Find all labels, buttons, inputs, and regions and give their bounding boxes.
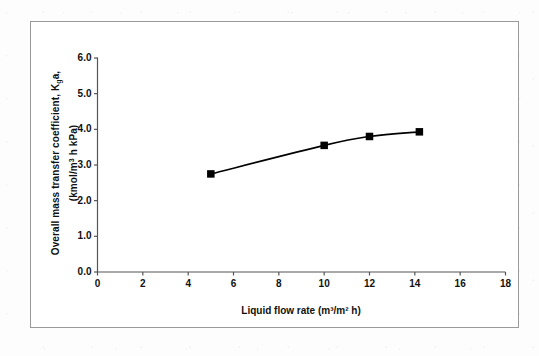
x-axis-tick-label: 14 [405,279,425,289]
x-axis-tick-label: 0 [88,279,108,289]
x-axis-tick-label: 2 [133,279,153,289]
y-axis-label-tail: a, [50,70,61,79]
y-axis-tick-label: 1.0 [66,231,92,241]
figure-canvas: Overall mass transfer coefficient, Kga, … [0,0,539,356]
x-axis-tick-label: 16 [450,279,470,289]
x-axis-tick-label: 18 [496,279,516,289]
y-axis-tick-label: 5.0 [66,89,92,99]
x-axis-label: Liquid flow rate (m³/m² h) [97,305,505,316]
x-axis-tick-label: 4 [178,279,198,289]
x-axis-tick-label: 12 [360,279,380,289]
y-axis-tick-label: 2.0 [66,196,92,206]
x-axis-tick-label: 6 [224,279,244,289]
y-axis-tick-label: 3.0 [66,160,92,170]
y-axis-tick-label: 0.0 [66,267,92,277]
y-axis-tick-label: 6.0 [66,53,92,63]
y-axis-label-main: Overall mass transfer coefficient, K [50,83,61,254]
x-axis-tick-label: 8 [269,279,289,289]
y-axis-label-subscript: g [55,79,62,83]
x-axis-tick-label: 10 [314,279,334,289]
y-axis-tick-label: 4.0 [66,124,92,134]
